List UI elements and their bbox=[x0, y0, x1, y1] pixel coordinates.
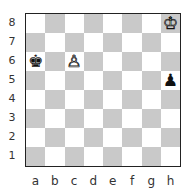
square-h7 bbox=[161, 33, 180, 52]
square-d2 bbox=[84, 128, 103, 147]
square-e5 bbox=[103, 71, 122, 90]
square-a1 bbox=[26, 147, 45, 166]
square-c5 bbox=[65, 71, 84, 90]
square-g6 bbox=[142, 52, 161, 71]
square-g7 bbox=[142, 33, 161, 52]
square-c8 bbox=[65, 14, 84, 33]
file-label-b: b bbox=[45, 174, 64, 188]
rank-label-8: 8 bbox=[6, 13, 18, 32]
square-g5 bbox=[142, 71, 161, 90]
square-a6: ♚ bbox=[26, 52, 45, 71]
file-label-d: d bbox=[84, 174, 103, 188]
square-c3 bbox=[65, 109, 84, 128]
rank-label-4: 4 bbox=[6, 89, 18, 108]
square-b4 bbox=[45, 90, 64, 109]
square-h1 bbox=[161, 147, 180, 166]
square-c1 bbox=[65, 147, 84, 166]
rank-label-1: 1 bbox=[6, 146, 18, 165]
file-label-g: g bbox=[142, 174, 161, 188]
square-h2 bbox=[161, 128, 180, 147]
square-a7 bbox=[26, 33, 45, 52]
white-king-icon: ♔ bbox=[163, 15, 178, 32]
black-pawn-icon: ♟ bbox=[163, 72, 178, 89]
square-d8 bbox=[84, 14, 103, 33]
square-f5 bbox=[122, 71, 141, 90]
square-c4 bbox=[65, 90, 84, 109]
square-f8 bbox=[122, 14, 141, 33]
square-d1 bbox=[84, 147, 103, 166]
square-h8: ♔ bbox=[161, 14, 180, 33]
square-h4 bbox=[161, 90, 180, 109]
rank-label-3: 3 bbox=[6, 108, 18, 127]
file-label-h: h bbox=[161, 174, 180, 188]
chess-board: ♔♚♙♟ bbox=[25, 13, 181, 167]
square-b7 bbox=[45, 33, 64, 52]
square-f2 bbox=[122, 128, 141, 147]
square-b1 bbox=[45, 147, 64, 166]
square-d6 bbox=[84, 52, 103, 71]
rank-label-6: 6 bbox=[6, 51, 18, 70]
square-c7 bbox=[65, 33, 84, 52]
black-king-icon: ♚ bbox=[28, 53, 43, 70]
square-a4 bbox=[26, 90, 45, 109]
square-h3 bbox=[161, 109, 180, 128]
file-label-a: a bbox=[26, 174, 45, 188]
square-g8 bbox=[142, 14, 161, 33]
square-a5 bbox=[26, 71, 45, 90]
square-g2 bbox=[142, 128, 161, 147]
square-b5 bbox=[45, 71, 64, 90]
square-f3 bbox=[122, 109, 141, 128]
square-f1 bbox=[122, 147, 141, 166]
square-d4 bbox=[84, 90, 103, 109]
file-label-e: e bbox=[103, 174, 122, 188]
square-g4 bbox=[142, 90, 161, 109]
square-e7 bbox=[103, 33, 122, 52]
square-d7 bbox=[84, 33, 103, 52]
square-b3 bbox=[45, 109, 64, 128]
file-label-f: f bbox=[123, 174, 142, 188]
file-label-c: c bbox=[65, 174, 84, 188]
square-a2 bbox=[26, 128, 45, 147]
rank-label-7: 7 bbox=[6, 32, 18, 51]
square-f7 bbox=[122, 33, 141, 52]
white-pawn-icon: ♙ bbox=[67, 53, 82, 70]
square-h5: ♟ bbox=[161, 71, 180, 90]
square-f4 bbox=[122, 90, 141, 109]
rank-label-2: 2 bbox=[6, 127, 18, 146]
square-e1 bbox=[103, 147, 122, 166]
square-g3 bbox=[142, 109, 161, 128]
square-e3 bbox=[103, 109, 122, 128]
square-h6 bbox=[161, 52, 180, 71]
square-a8 bbox=[26, 14, 45, 33]
square-f6 bbox=[122, 52, 141, 71]
square-d3 bbox=[84, 109, 103, 128]
square-a3 bbox=[26, 109, 45, 128]
square-e4 bbox=[103, 90, 122, 109]
square-d5 bbox=[84, 71, 103, 90]
square-b2 bbox=[45, 128, 64, 147]
rank-label-5: 5 bbox=[6, 70, 18, 89]
square-g1 bbox=[142, 147, 161, 166]
square-e2 bbox=[103, 128, 122, 147]
square-c2 bbox=[65, 128, 84, 147]
square-e6 bbox=[103, 52, 122, 71]
square-b8 bbox=[45, 14, 64, 33]
square-c6: ♙ bbox=[65, 52, 84, 71]
square-b6 bbox=[45, 52, 64, 71]
square-e8 bbox=[103, 14, 122, 33]
